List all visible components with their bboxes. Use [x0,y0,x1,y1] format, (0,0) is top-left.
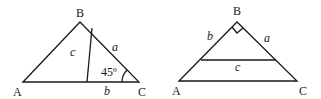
label-vertex-b-right: B [233,4,241,18]
angle-arc-c [122,70,127,82]
label-side-c-left: c [70,45,76,59]
label-side-b-right: b [207,29,213,43]
label-side-b-left: b [104,84,110,98]
diagram-canvas: B A C c a b 45º B A C b a c [0,0,321,99]
geometry-diagram: B A C c a b 45º B A C b a c [0,0,321,99]
label-vertex-a-left: A [13,85,22,99]
left-triangle [23,22,139,82]
label-side-c-right: c [235,60,241,74]
label-vertex-c-left: C [138,85,146,99]
label-side-a-right: a [264,31,270,45]
label-side-a-left: a [112,40,118,54]
right-angle-marker [232,27,243,33]
label-vertex-c-right: C [299,84,307,98]
triangle-abc-left [23,22,139,82]
label-angle-45: 45º [101,65,117,79]
label-vertex-a-right: A [172,84,181,98]
label-vertex-b-left: B [76,6,84,20]
cevian-line [87,28,92,82]
